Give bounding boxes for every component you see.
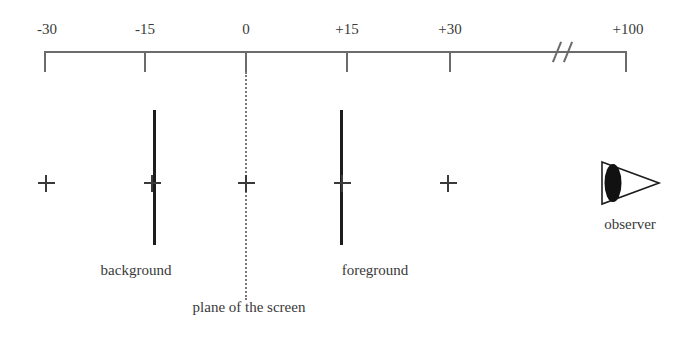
axis-tick-zero [245,51,247,72]
axis-label-plus-30: +30 [438,22,461,37]
axis-label-minus-15: -15 [135,22,155,37]
axis-label-zero: 0 [242,22,250,37]
foreground-label: foreground [342,262,409,278]
crosshair-minus-15 [144,175,161,192]
axis-line [44,51,627,53]
observer-label: observer [604,216,656,232]
eye-icon [596,155,666,213]
depth-axis-diagram: -30 -15 0 +15 +30 +100 background foregr… [0,0,699,337]
axis-tick-plus-30 [449,51,451,72]
crosshair-zero [238,175,255,192]
axis-label-plus-100: +100 [613,22,644,37]
axis-tick-minus-30 [44,51,46,72]
screen-plane-label: plane of the screen [193,299,306,315]
axis-label-plus-15: +15 [335,22,358,37]
axis-label-minus-30: -30 [37,22,57,37]
crosshair-plus-30 [440,175,457,192]
crosshair-minus-30 [38,175,55,192]
background-label: background [101,262,172,278]
axis-tick-plus-15 [346,51,348,72]
axis-tick-plus-100 [625,51,627,72]
crosshair-plus-15 [334,175,351,192]
axis-tick-minus-15 [144,51,146,72]
